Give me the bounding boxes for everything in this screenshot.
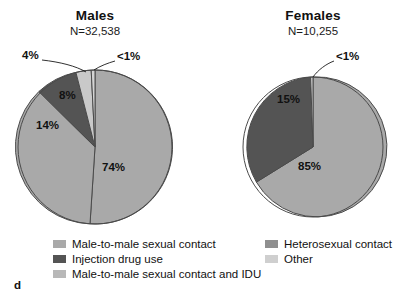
legend-item: Male-to-male sexual contact and IDU	[53, 267, 261, 281]
legend-item: Other	[265, 252, 392, 266]
legend-label: Injection drug use	[72, 253, 163, 266]
legend-swatch-injection-drug-use	[53, 255, 66, 263]
males-label-lt1: <1%	[117, 50, 140, 62]
males-leader-4pct	[42, 60, 86, 72]
legend-swatch-mmsc-and-idu	[53, 270, 66, 278]
males-slice-male-to-male	[90, 70, 173, 224]
legend-label: Other	[284, 253, 313, 266]
males-label-8: 8%	[59, 89, 76, 101]
males-pie	[15, 70, 172, 224]
females-label-15: 15%	[277, 93, 300, 105]
females-label-lt1: <1%	[336, 50, 359, 62]
legend-label: Male-to-male sexual contact and IDU	[72, 268, 261, 281]
females-pie	[243, 77, 387, 217]
legend-label: Male-to-male sexual contact	[72, 238, 216, 251]
panel-letter: d	[14, 279, 21, 291]
legend-item: Heterosexual contact	[265, 237, 392, 251]
females-leader-lt1pct	[313, 61, 334, 77]
legend-swatch-heterosexual	[265, 240, 278, 248]
males-label-74: 74%	[102, 161, 125, 173]
females-label-85: 85%	[298, 160, 321, 172]
legend-item: Injection drug use	[53, 252, 261, 266]
males-label-14: 14%	[36, 119, 59, 131]
males-label-4: 4%	[22, 49, 39, 61]
legend-swatch-male-to-male	[53, 240, 66, 248]
legend-label: Heterosexual contact	[284, 238, 392, 251]
legend-right: Heterosexual contact Other	[265, 237, 392, 267]
legend-swatch-other	[265, 255, 278, 263]
males-leader-lt1pct	[94, 61, 115, 70]
legend-item: Male-to-male sexual contact	[53, 237, 261, 251]
legend-left: Male-to-male sexual contact Injection dr…	[53, 237, 261, 282]
figure-panel-d: Males N=32,538 Females N=10,255	[0, 0, 412, 299]
